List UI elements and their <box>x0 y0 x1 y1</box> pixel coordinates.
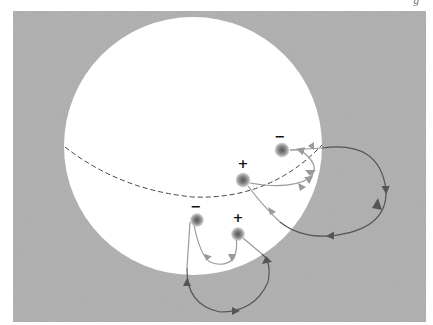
polarity-label-lower-plus: + <box>233 210 244 225</box>
polarity-label-upper-plus: + <box>238 156 249 171</box>
polarity-label-upper-minus: − <box>275 129 286 144</box>
magnetic-field-diagram: − + − + <box>0 0 433 325</box>
sunspot-upper-plus <box>236 173 250 187</box>
sunspot-upper-minus <box>275 143 289 157</box>
sunspot-lower-minus <box>191 214 204 227</box>
sunspot-lower-plus <box>232 228 245 241</box>
caption-fragment: g <box>414 0 420 6</box>
polarity-label-lower-minus: − <box>191 199 202 214</box>
